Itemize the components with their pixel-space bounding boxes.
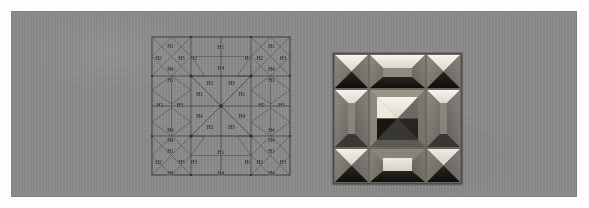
diagram-label-tr-s: H4 — [268, 66, 275, 72]
diagram-label-ctr-e: H1 — [239, 91, 246, 97]
diagram-label-mr-s: H4 — [268, 127, 275, 133]
diagram-label-bc-e: H1 — [245, 159, 252, 165]
diagram-label-ctr-s2: H3 — [228, 124, 235, 130]
diagram-label-ml-n: H1 — [167, 77, 174, 83]
diagram-label-bl-w: H2 — [155, 159, 162, 165]
scanned-page: H1H2H3H4H2H1H1H4H1H2H3H4H1H2H3H4H2H3H1H1… — [0, 0, 589, 208]
diagram-label-tc-n: H1 — [218, 44, 225, 50]
diagram-label-ctr-w: H1 — [196, 91, 203, 97]
scan-artifact-bottom-text — [14, 185, 98, 195]
quilt-tile-mid-left — [335, 90, 368, 147]
diagram-label-br-e: H3 — [280, 159, 287, 165]
diagram-label-mr-n: H1 — [268, 77, 275, 83]
tiling-diagram-svg: H1H2H3H4H2H1H1H4H1H2H3H4H1H2H3H4H2H3H1H1… — [150, 35, 292, 177]
diagram-label-bl-s: H4 — [167, 170, 174, 176]
diagram-label-ctr-sw: H4 — [196, 113, 203, 119]
diagram-label-tr-n: H1 — [268, 43, 275, 49]
diagram-label-ctr-ne: H3 — [228, 80, 235, 86]
diagram-label-tl-e: H3 — [178, 55, 185, 61]
quilt-photograph-svg — [333, 53, 462, 184]
diagram-label-ctr-s1: H2 — [207, 124, 214, 130]
quilt-photograph-panel — [333, 53, 462, 184]
diagram-label-bc-n: H1 — [218, 149, 225, 155]
diagram-label-tl-s: H4 — [167, 66, 174, 72]
quilt-tile-bottom-center — [370, 149, 425, 182]
quilt-tile-top-right — [427, 55, 460, 88]
diagram-label-tr-e: H3 — [280, 55, 287, 61]
quilt-tile-mid-right — [427, 90, 460, 147]
tiling-diagram-panel: H1H2H3H4H2H1H1H4H1H2H3H4H1H2H3H4H2H3H1H1… — [150, 35, 292, 177]
diagram-label-ctr-se: H4 — [239, 113, 246, 119]
quilt-tile-top-center — [370, 55, 425, 88]
diagram-label-ctr-nw: H2 — [207, 80, 214, 86]
diagram-label-tl-w: H2 — [155, 55, 162, 61]
diagram-label-br-n0: H4 — [268, 137, 275, 143]
diagram-label-bc-s: H4 — [218, 170, 225, 176]
diagram-label-bl-n0: H4 — [167, 137, 174, 143]
diagram-label-tc-e: H1 — [245, 55, 252, 61]
diagram-label-ml-s: H4 — [167, 127, 174, 133]
diagram-label-bl-n: H1 — [167, 148, 174, 154]
diagram-label-bc-w: H3 — [191, 159, 198, 165]
diagram-label-tc-s: H4 — [218, 65, 225, 71]
figure-plate-background: H1H2H3H4H2H1H1H4H1H2H3H4H1H2H3H4H2H3H1H1… — [11, 11, 577, 197]
diagram-label-tc-w: H2 — [191, 55, 198, 61]
diagram-label-bl-e: H3 — [178, 159, 185, 165]
diagram-label-mr-e: H3 — [278, 102, 285, 108]
quilt-tile-top-left — [335, 55, 368, 88]
quilt-tile-bottom-right — [427, 149, 460, 182]
diagram-label-br-w: H2 — [257, 159, 264, 165]
quilt-tile-center — [370, 90, 425, 147]
diagram-label-br-n: H1 — [268, 148, 275, 154]
diagram-label-tl-n: H1 — [167, 43, 174, 49]
diagram-label-ml-w: H2 — [157, 102, 164, 108]
scan-artifact-top-text — [6, 0, 98, 6]
diagram-label-br-s: H4 — [268, 170, 275, 176]
quilt-tile-bottom-left — [335, 149, 368, 182]
diagram-label-mr-w: H2 — [258, 102, 265, 108]
diagram-label-tr-w: H2 — [257, 55, 264, 61]
diagram-label-ml-e: H3 — [177, 102, 184, 108]
